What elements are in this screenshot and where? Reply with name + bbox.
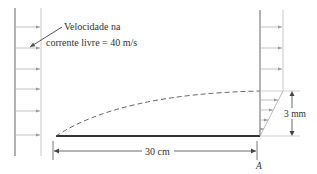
freestream-profile [15, 8, 41, 156]
point-A-label: A [255, 161, 262, 171]
freestream-label-line1: Velocidade na [64, 21, 121, 32]
boundary-layer-diagram: Velocidade na corrente livre = 40 m/s 3 … [0, 0, 317, 174]
boundary-layer-edge [56, 91, 260, 136]
thickness-label: 3 mm [284, 109, 307, 119]
freestream-label-line2: corrente livre = 40 m/s [46, 37, 137, 48]
length-label: 30 cm [145, 146, 170, 157]
